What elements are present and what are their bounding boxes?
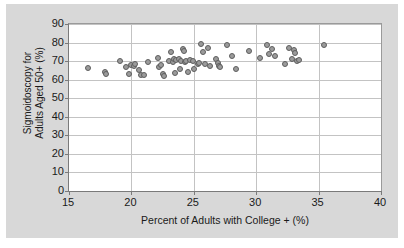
data-point [191,66,197,72]
data-point [168,49,174,55]
data-point [155,55,161,61]
gridline-vertical [256,24,257,191]
x-axis-title: Percent of Adults with College + (%) [68,214,382,227]
y-axis-tick-label: 20 [42,148,64,159]
x-axis-tick-label: 40 [360,197,400,208]
gridline-horizontal [69,61,381,62]
y-axis-tick-label: 30 [42,129,64,140]
data-point [126,71,132,77]
y-axis-tick-label: 50 [42,92,64,103]
y-axis-tick-label: 60 [42,74,64,85]
data-point [292,50,298,56]
chart-figure: Sigmoidoscopy for Adults Aged 50+ (%) 01… [0,0,404,248]
x-axis-tick-label: 15 [48,197,88,208]
plot-area [68,23,382,192]
x-axis-tick [131,191,132,195]
y-axis-tick-label: 10 [42,166,64,177]
gridline-horizontal [69,135,381,136]
y-axis-tick-label: 90 [42,18,64,29]
y-axis-tick [65,61,69,62]
y-axis-tick [65,135,69,136]
y-axis-tick-labels: 0102030405060708090 [38,23,64,192]
data-point [321,42,327,48]
data-point [246,48,252,54]
data-point [177,66,183,72]
y-axis-tick [65,117,69,118]
data-point [269,46,275,52]
data-point [158,62,164,68]
data-point [205,45,211,51]
data-point [224,42,230,48]
data-point [229,53,235,59]
data-point [200,49,206,55]
x-axis-tick [381,191,382,195]
data-point [282,61,288,67]
data-point [217,64,223,70]
gridline-horizontal [69,117,381,118]
gridline-horizontal [69,154,381,155]
gridline-horizontal [69,24,381,25]
x-axis-tick [256,191,257,195]
y-axis-tick [65,154,69,155]
x-axis-tick [194,191,195,195]
data-point [161,73,167,79]
gridline-horizontal [69,80,381,81]
y-axis-tick-label: 0 [42,185,64,196]
y-axis-title-wrap: Sigmoidoscopy for Adults Aged 50+ (%) [10,23,38,192]
data-point [272,53,278,59]
x-axis-tick-label: 30 [235,197,275,208]
y-axis-tick [65,98,69,99]
data-point [198,41,204,47]
gridline-horizontal [69,172,381,173]
y-axis-tick [65,43,69,44]
x-axis-tick-label: 20 [110,197,150,208]
y-axis-tick-label: 40 [42,111,64,122]
x-axis-tick-labels: 152025303540 [68,197,382,211]
x-axis-tick [319,191,320,195]
x-axis-tick-label: 25 [173,197,213,208]
data-point [141,72,147,78]
y-axis-tick [65,24,69,25]
y-axis-title-line1: Sigmoidoscopy for [22,52,33,134]
data-point [103,71,109,77]
y-axis-tick-label: 70 [42,55,64,66]
y-axis-tick [65,172,69,173]
data-point [145,59,151,65]
y-axis-tick-label: 80 [42,37,64,48]
data-point [296,57,302,63]
data-point [181,48,187,54]
data-point [85,65,91,71]
gridline-horizontal [69,98,381,99]
data-point [185,69,191,75]
gridline-vertical [319,24,320,191]
y-axis-tick [65,80,69,81]
data-point [207,63,213,69]
gridline-vertical [194,24,195,191]
data-point [117,58,123,64]
data-point [233,66,239,72]
gridline-vertical [131,24,132,191]
x-axis-tick-label: 35 [298,197,338,208]
data-point [196,60,202,66]
x-axis-tick [69,191,70,195]
